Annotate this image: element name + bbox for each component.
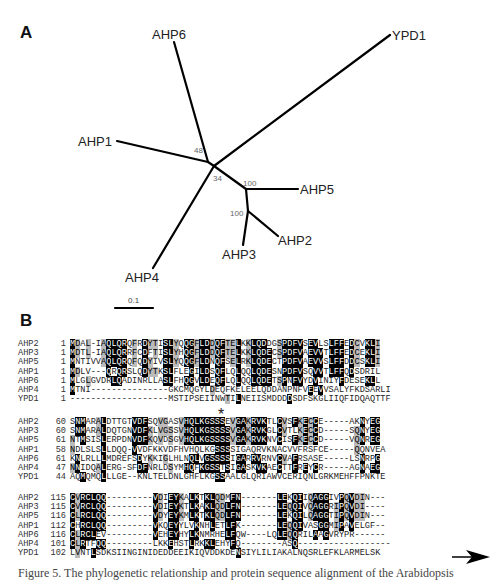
sequence-start: 1 xyxy=(48,386,70,395)
leaf-ypd1: YPD1 xyxy=(392,28,426,43)
sequence-start: 1 xyxy=(48,395,70,404)
sequence-start: 102 xyxy=(48,549,70,558)
sequence-start: 1 xyxy=(48,340,70,349)
figure-caption: Figure 5. The phylogenetic relationship … xyxy=(18,566,454,581)
leaf-ahp6: AHP6 xyxy=(152,27,186,42)
bootstrap-48: 48 xyxy=(194,146,203,155)
sequence-start: 1 xyxy=(48,358,70,367)
alignment-row: YPD1102LVNTLSDKSIINGINIDEDDEEIKIQVDDKDEN… xyxy=(0,549,391,558)
alignment-row: YPD11-------------------MSTIPSEIINWTILNE… xyxy=(0,395,391,404)
leaf-ahp2: AHP2 xyxy=(278,233,312,248)
bootstrap-100-ahp5: 100 xyxy=(243,179,257,188)
leaf-ahp5: AHP5 xyxy=(300,182,334,197)
bootstrap-100-ahp23: 100 xyxy=(230,209,244,218)
alignment-block-1: AHP21MDAL-IAQLQRQFRDYTISLYQQGFLDDQFTELKK… xyxy=(0,340,391,404)
arrow-icon xyxy=(452,549,492,565)
leaf-ahp4: AHP4 xyxy=(125,270,159,285)
alignment-block-2: AHP260SNMARALDTTGTVDFSQVGASVHQLKGSSSEVGA… xyxy=(0,418,385,482)
sequence-residues: LVNTLSDKSIINGINIDEDDEEIKIQVDDKDENSIYLILI… xyxy=(70,549,380,558)
bootstrap-34: 34 xyxy=(213,174,222,183)
sequence-name: YPD1 xyxy=(0,549,48,558)
sequence-name: YPD1 xyxy=(0,473,48,482)
sequence-start: 1 xyxy=(48,377,70,386)
alignment-row: YPD144AQMQMQLLLGE--KNLTELDNLGHFLKGSSAALG… xyxy=(0,473,385,482)
leaf-ahp1: AHP1 xyxy=(78,134,112,149)
sequence-residues: -------------------MSTIPSEIINWTILNEIISMD… xyxy=(70,395,391,404)
sequence-name: YPD1 xyxy=(0,395,48,404)
alignment-block-3: AHP2115CVRCLQQ---------VDIEYKALKTKLQDMFN… xyxy=(0,494,391,558)
panel-b-label: B xyxy=(20,311,32,331)
scale-bar-label: 0.1 xyxy=(128,296,140,305)
sequence-start: 44 xyxy=(48,473,70,482)
sequence-start: 1 xyxy=(48,368,70,377)
phylogenetic-tree: AHP6 YPD1 AHP1 AHP5 AHP2 AHP3 AHP4 48 34… xyxy=(0,0,498,320)
sequence-residues: AQMQMQLLLGE--KNLTELDNLGHFLKGSSAALGLQRIAW… xyxy=(70,473,385,482)
leaf-ahp3: AHP3 xyxy=(222,247,256,262)
sequence-start: 1 xyxy=(48,349,70,358)
